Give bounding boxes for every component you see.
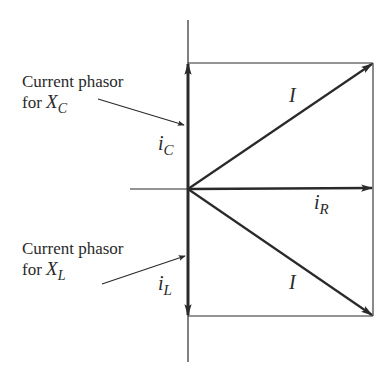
- annotation-inductor-line2: for XL: [22, 258, 66, 283]
- annotation-inductor-subscript: L: [57, 268, 66, 283]
- phasor-i-lower: [188, 189, 372, 315]
- label-i-r: iR: [314, 191, 329, 217]
- pointer-arrow-capacitor: [98, 99, 184, 125]
- label-i-upper: I: [288, 84, 297, 106]
- annotation-capacitor-prefix: for: [22, 93, 46, 112]
- label-i-c: iC: [158, 132, 175, 158]
- annotation-capacitor-line1: Current phasor: [22, 72, 124, 91]
- phasor-i-upper: [188, 64, 372, 189]
- label-i-c-subscript: C: [164, 142, 175, 158]
- annotation-capacitor-subscript: C: [58, 101, 68, 116]
- pointer-arrow-inductor: [102, 256, 185, 284]
- label-i-r-subscript: R: [319, 201, 329, 217]
- annotation-capacitor-line2: for XC: [22, 91, 68, 116]
- label-i-l: iL: [158, 272, 172, 298]
- annotation-inductor-line1: Current phasor: [22, 239, 124, 258]
- label-i-lower: I: [288, 271, 297, 293]
- phasor-i-r: [188, 188, 372, 189]
- phasor-diagram: Current phasor for XC Current phasor for…: [0, 0, 385, 373]
- annotation-inductor-prefix: for: [22, 260, 46, 279]
- label-i-l-subscript: L: [163, 282, 172, 298]
